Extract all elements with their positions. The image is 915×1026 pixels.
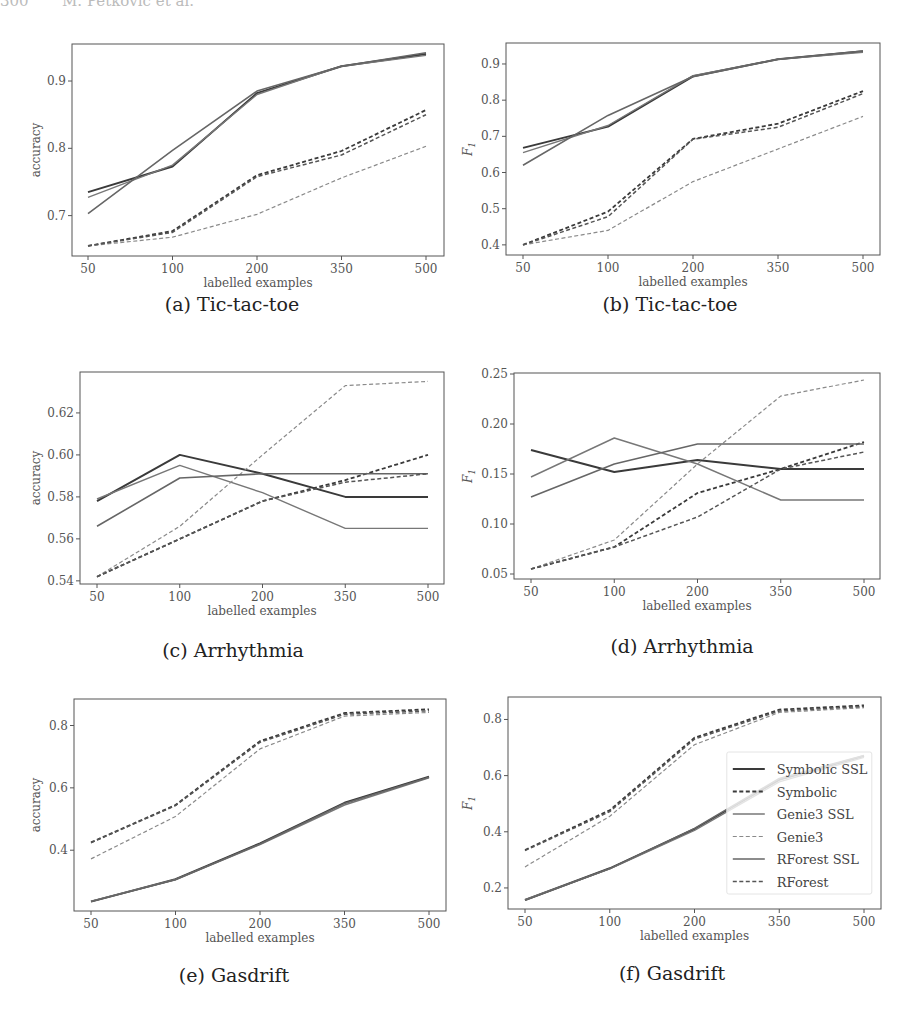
legend-label: Symbolic (777, 785, 837, 800)
caption-e: (e) Gasdrift (154, 964, 314, 986)
x-tick-label: 500 (853, 915, 876, 929)
caption-f: (f) Gasdrift (592, 962, 752, 984)
legend-label: RForest SSL (777, 852, 859, 867)
caption-c: (c) Arrhythmia (153, 639, 313, 661)
x-tick-label: 100 (598, 915, 621, 929)
x-tick-label: 50 (517, 915, 532, 929)
y-tick-label: 0.2 (483, 881, 502, 895)
caption-a: (a) Tic-tac-toe (152, 293, 312, 315)
y-tick-label: 0.6 (483, 769, 502, 783)
x-axis-label: labelled examples (640, 929, 749, 943)
legend-label: Genie3 (777, 830, 824, 845)
legend-label: RForest (777, 875, 830, 890)
caption-b: (b) Tic-tac-toe (590, 293, 750, 315)
x-tick-label: 200 (683, 915, 706, 929)
y-tick-label: 0.4 (483, 825, 502, 839)
x-tick-label: 350 (768, 915, 791, 929)
y-axis-label: F1 (461, 796, 477, 811)
legend-label: Symbolic SSL (777, 762, 868, 777)
y-tick-label: 0.8 (483, 712, 502, 726)
caption-d: (d) Arrhythmia (602, 635, 762, 657)
line-chart-gasdrift-f1: 0.20.40.60.850100200350500labelled examp… (0, 0, 915, 1026)
legend-label: Genie3 SSL (777, 807, 854, 822)
